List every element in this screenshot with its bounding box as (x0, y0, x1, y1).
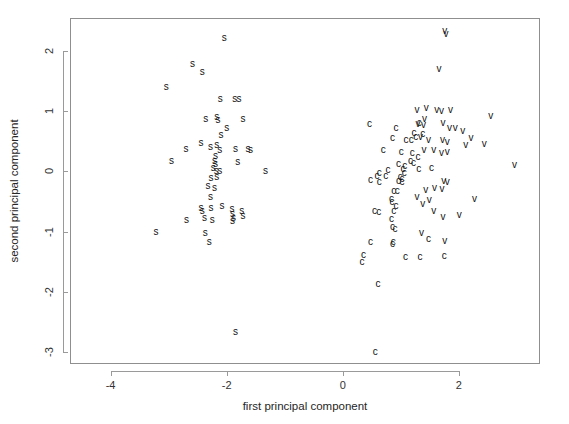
data-point-c: c (373, 347, 378, 357)
data-point-s: s (236, 94, 241, 104)
data-point-v: v (418, 132, 423, 142)
data-point-c: c (383, 171, 388, 181)
data-point-c: c (381, 145, 386, 155)
data-point-s: s (222, 33, 227, 43)
data-point-v: v (423, 185, 428, 195)
data-point-v: v (441, 118, 446, 128)
data-point-c: c (417, 252, 422, 262)
data-point-s: s (210, 215, 215, 225)
data-point-s: s (206, 181, 211, 191)
y-axis-title: second principal component (8, 119, 20, 262)
data-point-v: v (427, 195, 432, 205)
data-point-c: c (392, 224, 397, 234)
data-point-c: c (376, 207, 381, 217)
x-tick (459, 371, 460, 376)
data-point-v: v (419, 228, 424, 238)
data-point-c: c (399, 177, 404, 187)
x-tick-label: -2 (222, 379, 232, 391)
y-tick-label: 0 (43, 162, 55, 180)
data-point-v: v (415, 105, 420, 115)
data-point-v: v (420, 199, 425, 209)
data-point-v: v (416, 119, 421, 129)
plot-data-area: ssssssssssssssssssssssssssssssssssssssss… (70, 18, 540, 364)
data-point-c: c (390, 133, 395, 143)
data-point-v: v (437, 64, 442, 74)
data-point-s: s (190, 59, 195, 69)
data-point-v: v (463, 140, 468, 150)
data-point-s: s (224, 123, 229, 133)
data-point-s: s (240, 211, 245, 221)
data-point-c: c (368, 175, 373, 185)
data-point-v: v (444, 29, 449, 39)
data-point-s: s (240, 114, 245, 124)
data-point-s: s (216, 115, 221, 125)
data-point-v: v (432, 183, 437, 193)
data-point-s: s (153, 227, 158, 237)
data-point-v: v (445, 147, 450, 157)
scatter-plot: ssssssssssssssssssssssssssssssssssssssss… (0, 0, 569, 424)
data-point-v: v (415, 192, 420, 202)
data-point-v: v (482, 139, 487, 149)
data-point-c: c (376, 279, 381, 289)
y-axis-line (63, 51, 64, 352)
data-point-s: s (200, 67, 205, 77)
data-point-s: s (263, 166, 268, 176)
data-point-v: v (472, 194, 477, 204)
data-point-v: v (457, 210, 462, 220)
x-tick-label: 2 (456, 379, 462, 391)
data-point-s: s (164, 82, 169, 92)
data-point-s: s (184, 215, 189, 225)
y-tick-label: 2 (43, 42, 55, 60)
data-point-s: s (184, 144, 189, 154)
data-point-s: s (209, 203, 214, 213)
data-point-c: c (367, 119, 372, 129)
data-point-s: s (233, 144, 238, 154)
x-axis-title: first principal component (243, 400, 368, 412)
data-point-c: c (359, 257, 364, 267)
data-point-v: v (469, 133, 474, 143)
data-point-v: v (431, 145, 436, 155)
data-point-v: v (439, 106, 444, 116)
data-point-v: v (439, 184, 444, 194)
y-tick-label: -3 (43, 343, 55, 361)
data-point-c: c (395, 186, 400, 196)
data-point-v: v (447, 123, 452, 133)
data-point-v: v (441, 212, 446, 222)
y-tick-label: 1 (43, 102, 55, 120)
x-axis-line (111, 371, 459, 372)
data-point-s: s (220, 201, 225, 211)
y-tick-label: -2 (43, 283, 55, 301)
data-point-v: v (422, 145, 427, 155)
data-point-c: c (368, 237, 373, 247)
data-point-c: c (426, 234, 431, 244)
data-point-v: v (460, 126, 465, 136)
data-point-c: c (399, 147, 404, 157)
data-point-s: s (233, 327, 238, 337)
y-tick (63, 352, 68, 353)
data-point-s: s (207, 237, 212, 247)
data-point-s: s (248, 145, 253, 155)
data-point-v: v (448, 105, 453, 115)
data-point-v: v (431, 206, 436, 216)
data-point-c: c (390, 239, 395, 249)
data-point-s: s (235, 157, 240, 167)
data-point-v: v (439, 148, 444, 158)
data-point-c: c (416, 164, 421, 174)
y-tick-label: -1 (43, 223, 55, 241)
data-point-s: s (169, 156, 174, 166)
data-point-v: v (488, 111, 493, 121)
data-point-c: c (377, 177, 382, 187)
data-point-v: v (512, 160, 517, 170)
data-point-s: s (231, 213, 236, 223)
data-point-v: v (453, 123, 458, 133)
data-point-c: c (416, 152, 421, 162)
data-point-s: s (218, 94, 223, 104)
data-point-s: s (199, 138, 204, 148)
data-point-s: s (203, 114, 208, 124)
data-point-s: s (202, 213, 207, 223)
data-point-c: c (403, 252, 408, 262)
data-point-s: s (214, 172, 219, 182)
data-point-v: v (421, 120, 426, 130)
x-tick-label: -4 (106, 379, 116, 391)
data-point-v: v (445, 177, 450, 187)
